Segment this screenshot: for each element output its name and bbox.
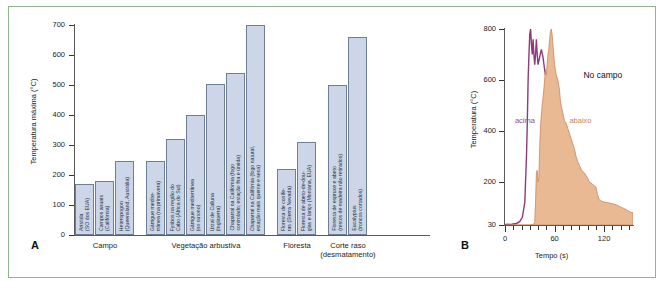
bar-group: Gárrigue medite- rrânea (na primavera)Fy… (146, 25, 266, 235)
x-tick-mark (563, 226, 564, 230)
bar-label-text: Aristida (SO dos EUA) (78, 198, 90, 231)
panel-b-letter: B (461, 239, 469, 251)
bar-label: Gárrigue medite- rrânea (na primavera) (147, 181, 164, 231)
panel-b-x-axis-title: Tempo (s) (535, 251, 568, 260)
x-major-tick-mark (604, 226, 605, 232)
bar-label: Floresta de conífe- ras (Sierra Nevada) (278, 186, 295, 231)
bar-label: Floresta de espruce e abeto (restos de m… (329, 154, 346, 231)
x-tick-mark (538, 226, 539, 230)
y-tick-label: 300 (29, 140, 65, 149)
panel-b-annotation: abaixo (569, 116, 591, 125)
y-tick-label: 400 (463, 126, 496, 135)
y-tick-mark (499, 225, 504, 226)
bar: Urzal de Calluna (Inglaterra) (206, 84, 225, 235)
y-tick-mark (69, 115, 74, 116)
y-tick-label: 500 (29, 80, 65, 89)
y-tick-mark (69, 145, 74, 146)
panel-a-plot-area: Aristida (SO dos EUA)Campos anuais (Cali… (75, 25, 430, 235)
y-tick-label: 200 (463, 177, 496, 186)
y-tick-mark (499, 29, 504, 30)
y-tick-mark (69, 205, 74, 206)
bar-label-text: Floresta de abeto-de-dou- glas e lariço … (300, 165, 312, 231)
bar-label: Chaparral na Califórnia (fogo natural, e… (247, 146, 264, 231)
bar: Fynbos na região do Cabo (África do Sul) (166, 139, 185, 235)
bar-label: Fynbos na região do Cabo (África do Sul) (167, 184, 184, 231)
bar-label-text: Heteropogon (Queensland, Austrália) (118, 177, 130, 231)
bar-label: Aristida (SO dos EUA) (76, 198, 93, 231)
panel-a-y-axis-line (74, 24, 75, 236)
x-tick-mark (530, 226, 531, 230)
bar: Gárrigue medite- rrânea (na primavera) (146, 161, 165, 235)
panel-a-bars: Aristida (SO dos EUA)Campos anuais (Cali… (75, 25, 430, 235)
bar-group: Aristida (SO dos EUA)Campos anuais (Cali… (75, 25, 135, 235)
bar-group: Floresta de espruce e abeto (restos de m… (328, 25, 368, 235)
x-tick-mark (513, 226, 514, 230)
bar: Floresta de conífe- ras (Sierra Nevada) (277, 169, 296, 235)
bar-label-text: Eucalyptus (troncos cortados) (351, 189, 363, 231)
y-tick-mark (69, 55, 74, 56)
bar: Gárrigue mediterrânea (no outono) (186, 115, 205, 235)
bar: Floresta de espruce e abeto (restos de m… (328, 85, 347, 235)
panel-b-y-axis-line (504, 28, 505, 226)
bar-label-text: Chaparral na Califórnia (fogo controlado… (229, 155, 241, 231)
bar: Chaparral na Califórnia (fogo controlado… (226, 73, 245, 235)
bar-label-text: Gárrigue medite- rrânea (na primavera) (149, 181, 161, 231)
panel-a-baseline (74, 235, 430, 236)
y-tick-mark (69, 85, 74, 86)
series-abaixo-area (505, 29, 633, 225)
bar-label: Eucalyptus (troncos cortados) (349, 189, 366, 231)
bar-label: Chaparral na Califórnia (fogo controlado… (227, 155, 244, 231)
y-tick-label: 100 (29, 200, 65, 209)
panel-b-baseline (504, 225, 634, 226)
bar-group: Floresta de conífe- ras (Sierra Nevada)F… (277, 25, 317, 235)
y-tick-label: 30 (463, 220, 496, 229)
bar-label-text: Gárrigue mediterrânea (no outono) (189, 179, 201, 231)
panel-b-curves (505, 29, 633, 225)
x-tick-label: 60 (540, 234, 570, 243)
x-tick-mark (571, 226, 572, 230)
y-tick-mark (499, 80, 504, 81)
x-tick-mark (588, 226, 589, 230)
bar-label: Heteropogon (Queensland, Austrália) (116, 177, 133, 231)
x-tick-mark (579, 226, 580, 230)
x-tick-mark (596, 226, 597, 230)
panel-a-letter: A (31, 239, 39, 251)
y-tick-mark (499, 182, 504, 183)
bar-label-text: Fynbos na região do Cabo (África do Sul) (169, 184, 181, 231)
x-tick-label: 0 (490, 234, 520, 243)
panel-b-annotation: No campo (583, 70, 622, 80)
panel-b-y-axis-title: Temperatura (°C) (469, 50, 478, 190)
bar: Floresta de abeto-de-dou- glas e lariço … (297, 142, 316, 235)
x-tick-mark (612, 226, 613, 230)
y-tick-label: 0 (29, 230, 65, 239)
bar-label-text: Chaparral na Califórnia (fogo natural, e… (249, 146, 261, 231)
panel-b-svg (505, 29, 633, 225)
panel-a-bar-chart: A Temperatura máxima (°C) Aristida (SO d… (9, 7, 449, 277)
bar: Aristida (SO dos EUA) (75, 184, 94, 235)
bar-label-text: Floresta de espruce e abeto (restos de m… (331, 154, 343, 231)
y-tick-label: 600 (463, 75, 496, 84)
x-major-tick-mark (505, 226, 506, 232)
bar-label: Campos anuais (Califórnia) (96, 195, 113, 231)
bar-label-text: Urzal de Calluna (Inglaterra) (209, 193, 221, 231)
bar: Eucalyptus (troncos cortados) (348, 37, 367, 235)
y-tick-label: 400 (29, 110, 65, 119)
y-tick-label: 200 (29, 170, 65, 179)
x-tick-label: 120 (589, 234, 619, 243)
x-tick-mark (629, 226, 630, 230)
y-tick-mark (69, 25, 74, 26)
x-tick-mark (546, 226, 547, 230)
y-tick-mark (69, 175, 74, 176)
bar: Chaparral na Califórnia (fogo natural, e… (246, 25, 265, 235)
panel-b-annotation: acima (515, 116, 535, 125)
x-tick-mark (522, 226, 523, 230)
panel-b-plot-area (505, 29, 633, 225)
y-tick-label: 600 (29, 50, 65, 59)
y-tick-label: 700 (29, 20, 65, 29)
bar: Heteropogon (Queensland, Austrália) (115, 161, 134, 235)
y-tick-mark (499, 131, 504, 132)
bar-label: Floresta de abeto-de-dou- glas e lariço … (298, 165, 315, 231)
y-tick-label: 800 (463, 24, 496, 33)
bar-label-text: Campos anuais (Califórnia) (98, 195, 110, 231)
x-tick-mark (621, 226, 622, 230)
